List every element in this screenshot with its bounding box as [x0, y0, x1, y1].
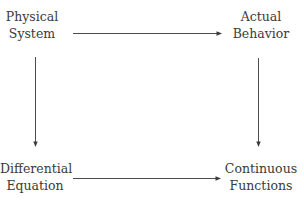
arrowhead-right-icon [216, 176, 222, 180]
diagram-edges [0, 0, 304, 203]
arrowhead-down-icon [33, 142, 37, 148]
arrowhead-down-icon [256, 142, 260, 148]
arrowhead-right-icon [217, 31, 223, 35]
